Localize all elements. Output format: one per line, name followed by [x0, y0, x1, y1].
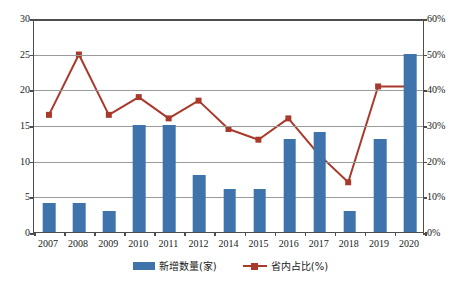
legend-line-marker: [251, 263, 258, 270]
x-axis-label: 2012: [188, 238, 208, 249]
legend-label: 省内占比(%): [271, 258, 328, 273]
bar-2016: [283, 139, 296, 232]
y-axis-left-tick: [30, 197, 34, 199]
chart-legend: 新增数量(家)省内占比(%): [0, 258, 461, 273]
y-axis-left-label: 25: [20, 50, 30, 60]
x-axis-tick: [335, 232, 337, 236]
bar-2018: [343, 211, 356, 232]
plot-area: 00%510%1020%1530%2040%2550%3060%: [33, 19, 424, 233]
x-axis-tick: [124, 232, 126, 236]
legend-label: 新增数量(家): [159, 258, 217, 273]
line-marker-2007: [46, 112, 52, 118]
bar-2017: [313, 132, 326, 232]
x-axis-tick: [275, 232, 277, 236]
y-axis-left-tick: [30, 162, 34, 164]
line-marker-2018: [345, 179, 351, 185]
y-axis-left-label: 15: [20, 121, 30, 131]
x-axis-label: 2014: [219, 238, 239, 249]
gridline: [34, 126, 423, 127]
y-axis-right-label: 50%: [427, 50, 445, 60]
x-axis-tick: [184, 232, 186, 236]
legend-bar-swatch-icon: [133, 262, 155, 270]
x-axis-label: 2015: [249, 238, 269, 249]
y-axis-right-label: 60%: [427, 14, 445, 24]
x-axis-tick: [305, 232, 307, 236]
bar-2012: [193, 175, 206, 232]
gridline: [34, 162, 423, 163]
x-axis-label: 2020: [399, 238, 419, 249]
y-axis-left-label: 20: [20, 85, 30, 95]
x-axis-tick: [214, 232, 216, 236]
y-axis-left-tick: [30, 19, 34, 21]
bar-2007: [43, 203, 56, 232]
line-marker-2016: [285, 115, 291, 121]
x-axis-label: 2009: [98, 238, 118, 249]
x-axis-tick: [245, 232, 247, 236]
gridline: [34, 19, 423, 21]
y-axis-left-tick: [30, 90, 34, 92]
y-axis-left-label: 10: [20, 157, 30, 167]
line-path: [49, 55, 408, 183]
bar-2020: [404, 54, 417, 232]
line-marker-2009: [106, 112, 112, 118]
x-axis-tick: [94, 232, 96, 236]
bar-2010: [133, 125, 146, 232]
line-marker-2012: [196, 98, 202, 104]
legend-line-swatch-icon: [243, 262, 267, 270]
line-marker-2011: [166, 115, 172, 121]
y-axis-left-label: 0: [25, 228, 30, 238]
y-axis-right-label: 20%: [427, 157, 445, 167]
line-marker-2019: [375, 83, 381, 89]
y-axis-right-label: 40%: [427, 85, 445, 95]
x-axis-label: 2011: [159, 238, 179, 249]
x-axis-label: 2016: [279, 238, 299, 249]
chart-container: 00%510%1020%1530%2040%2550%3060% 新增数量(家)…: [0, 0, 461, 281]
x-axis-tick: [395, 232, 397, 236]
bar-2019: [374, 139, 387, 232]
x-axis-tick: [64, 232, 66, 236]
bar-2014: [223, 189, 236, 232]
y-axis-right-label: 30%: [427, 121, 445, 131]
y-axis-left-tick: [30, 55, 34, 57]
x-axis-label: 2019: [369, 238, 389, 249]
y-axis-left-tick: [30, 126, 34, 128]
x-axis-tick: [154, 232, 156, 236]
y-axis-right-label: 0%: [427, 228, 440, 238]
x-axis-label: 2008: [68, 238, 88, 249]
legend-item-0[interactable]: 新增数量(家): [133, 258, 217, 273]
x-axis-tick: [365, 232, 367, 236]
gridline: [34, 55, 423, 56]
bar-2015: [253, 189, 266, 232]
y-axis-left-label: 30: [20, 14, 30, 24]
gridline: [34, 90, 423, 91]
x-axis-tick: [425, 232, 427, 236]
x-axis-label: 2017: [309, 238, 329, 249]
y-axis-left-label: 5: [25, 192, 30, 202]
line-marker-2010: [136, 94, 142, 100]
bar-2008: [73, 203, 86, 232]
x-axis-tick: [34, 232, 36, 236]
x-axis-label: 2018: [339, 238, 359, 249]
y-axis-right-label: 10%: [427, 192, 445, 202]
legend-item-1[interactable]: 省内占比(%): [243, 258, 328, 273]
bar-2011: [163, 125, 176, 232]
line-marker-2015: [255, 137, 261, 143]
bar-2009: [103, 211, 116, 232]
x-axis-label: 2007: [38, 238, 58, 249]
x-axis-label: 2010: [128, 238, 148, 249]
